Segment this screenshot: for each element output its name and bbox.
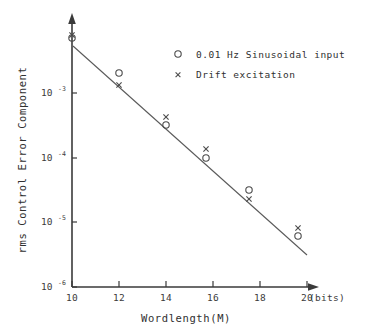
x-tick-label-12: 12 xyxy=(113,292,125,303)
data-point-circle-14 xyxy=(163,122,169,128)
legend-marker-cross-icon xyxy=(176,72,181,77)
y-tick-label-1-base: 10 xyxy=(41,87,53,98)
data-point-circle-20 xyxy=(295,233,301,239)
y-tick-label-2-exponent: -4 xyxy=(58,150,66,158)
data-point-circle-12 xyxy=(116,70,122,76)
y-tick-label-4-base: 10 xyxy=(41,281,53,292)
chart-figure: 10 -3 10 -4 10 -5 10 -6 10 12 14 16 18 2… xyxy=(0,0,365,336)
legend-label-drift: Drift excitation xyxy=(196,69,296,80)
y-tick-label-3-exponent: -5 xyxy=(58,214,66,222)
data-point-circle-18 xyxy=(246,187,252,193)
x-tick-label-10: 10 xyxy=(66,292,78,303)
x-axis-title: Wordlength(M) xyxy=(141,312,231,324)
legend-label-sinusoidal: 0.01 Hz Sinusoidal input xyxy=(196,49,345,60)
x-tick-label-18: 18 xyxy=(254,292,266,303)
x-tick-label-14: 14 xyxy=(160,292,172,303)
data-point-cross-16 xyxy=(203,146,208,151)
legend-marker-circle-icon xyxy=(175,51,181,57)
chart-legend: 0.01 Hz Sinusoidal input Drift excitatio… xyxy=(175,49,345,80)
y-tick-label-2-base: 10 xyxy=(41,152,53,163)
x-axis-arrow-icon xyxy=(308,283,319,291)
y-tick-label-3-base: 10 xyxy=(41,216,53,227)
y-axis-title: rms Control Error Component xyxy=(16,67,28,254)
data-point-cross-20 xyxy=(295,225,300,230)
x-axis-units-note: (bits) xyxy=(309,292,345,303)
data-point-cross-14 xyxy=(163,114,168,119)
y-axis-arrow-icon xyxy=(68,13,76,24)
chart-plot-area: 10 -3 10 -4 10 -5 10 -6 10 12 14 16 18 2… xyxy=(0,0,365,336)
data-point-circle-16 xyxy=(203,155,209,161)
x-tick-label-16: 16 xyxy=(207,292,219,303)
y-tick-label-4-exponent: -6 xyxy=(58,279,66,287)
y-tick-label-1-exponent: -3 xyxy=(58,85,66,93)
data-point-cross-18 xyxy=(246,196,251,201)
